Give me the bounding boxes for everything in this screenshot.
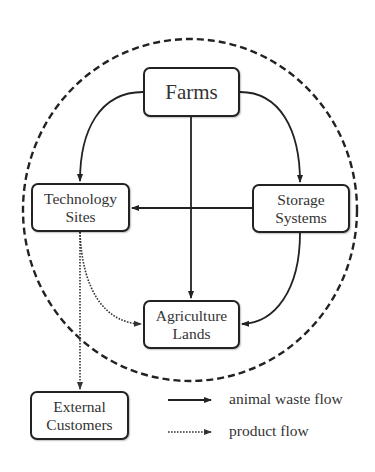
node-technology-sites: Technology Sites [31,183,130,232]
node-technology-line1: Technology [44,190,117,208]
node-storage-line2: Systems [275,209,327,227]
node-farms-label: Farms [165,80,218,104]
node-storage-line1: Storage [277,191,324,209]
node-storage-systems: Storage Systems [252,184,350,233]
node-external-line1: External [53,398,106,416]
node-external-customers: External Customers [30,391,129,440]
edge-technology-to-agriculture [80,232,141,324]
node-farms: Farms [143,67,240,117]
legend-dotted-label: product flow [229,422,309,440]
node-technology-line2: Sites [65,208,95,226]
node-agriculture-line2: Lands [173,325,211,343]
edge-storage-to-agriculture [242,233,300,324]
node-agriculture-lands: Agriculture Lands [143,300,240,349]
edge-farms-to-storage [240,92,300,182]
legend-solid-label: animal waste flow [229,390,343,408]
edge-farms-to-technology [80,92,143,181]
node-external-line2: Customers [46,416,112,434]
node-agriculture-line1: Agriculture [156,307,227,325]
